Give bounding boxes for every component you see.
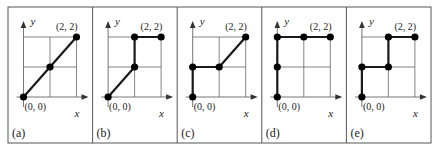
panel-label: (e) xyxy=(350,126,363,140)
panel-a: yx(0, 0)(2, 2)(a) xyxy=(12,15,89,140)
y-axis-arrow-icon xyxy=(190,21,196,28)
lattice-point xyxy=(274,93,281,100)
lattice-point xyxy=(385,33,392,40)
panel-e: yx(0, 0)(2, 2)(e) xyxy=(346,7,427,143)
x-axis-label: x xyxy=(243,107,249,119)
end-point-label: (2, 2) xyxy=(141,21,163,33)
origin-label: (0, 0) xyxy=(363,101,385,113)
lattice-point xyxy=(189,93,196,100)
panel-label: (d) xyxy=(266,126,280,140)
lattice-point xyxy=(274,63,281,70)
x-axis-arrow-icon xyxy=(335,94,342,100)
panels-container: yx(0, 0)(2, 2)(a)yx(0, 0)(2, 2)(b)yx(0, … xyxy=(12,7,427,143)
lattice-point xyxy=(358,63,365,70)
lattice-point xyxy=(274,33,281,40)
lattice-point xyxy=(216,63,223,70)
origin-label: (0, 0) xyxy=(25,101,47,113)
panel-label: (c) xyxy=(181,126,194,140)
lattice-point xyxy=(131,63,138,70)
y-axis-label: y xyxy=(30,15,36,27)
lattice-point xyxy=(300,33,307,40)
x-axis-arrow-icon xyxy=(82,94,89,100)
end-point-label: (2, 2) xyxy=(310,21,332,33)
y-axis-label: y xyxy=(283,15,289,27)
origin-label: (0, 0) xyxy=(194,101,216,113)
origin-label: (0, 0) xyxy=(278,101,300,113)
lattice-point xyxy=(46,63,53,70)
lattice-point xyxy=(189,63,196,70)
y-axis-label: y xyxy=(199,15,205,27)
panel-b: yx(0, 0)(2, 2)(b) xyxy=(93,7,174,143)
lattice-point xyxy=(20,93,27,100)
end-point-label: (2, 2) xyxy=(56,21,78,33)
end-point-label: (2, 2) xyxy=(225,21,247,33)
lattice-point xyxy=(158,33,165,40)
lattice-point xyxy=(385,63,392,70)
lattice-point xyxy=(327,33,334,40)
lattice-point xyxy=(73,33,80,40)
lattice-point xyxy=(358,93,365,100)
lattice-path-figure: yx(0, 0)(2, 2)(a)yx(0, 0)(2, 2)(b)yx(0, … xyxy=(0,0,439,152)
x-axis-arrow-icon xyxy=(166,94,173,100)
lattice-point xyxy=(131,33,138,40)
x-axis-label: x xyxy=(412,107,418,119)
panel-label: (a) xyxy=(12,126,25,140)
y-axis-arrow-icon xyxy=(359,21,365,28)
x-axis-arrow-icon xyxy=(251,94,258,100)
lattice-point xyxy=(105,93,112,100)
x-axis-label: x xyxy=(74,107,80,119)
y-axis-arrow-icon xyxy=(105,21,111,28)
y-axis-label: y xyxy=(368,15,374,27)
end-point-label: (2, 2) xyxy=(394,21,416,33)
panel-label: (b) xyxy=(97,126,111,140)
lattice-point xyxy=(411,33,418,40)
y-axis-arrow-icon xyxy=(275,21,281,28)
x-axis-label: x xyxy=(327,107,333,119)
x-axis-arrow-icon xyxy=(420,94,427,100)
origin-label: (0, 0) xyxy=(109,101,131,113)
y-axis-arrow-icon xyxy=(21,21,27,28)
lattice-point xyxy=(242,33,249,40)
y-axis-label: y xyxy=(114,15,120,27)
panel-d: yx(0, 0)(2, 2)(d) xyxy=(262,7,343,143)
panel-c: yx(0, 0)(2, 2)(c) xyxy=(177,7,258,143)
x-axis-label: x xyxy=(158,107,164,119)
